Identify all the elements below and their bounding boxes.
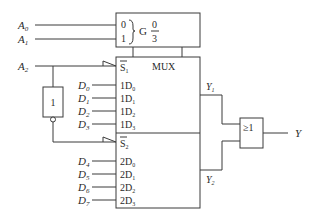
svg-text:0: 0 <box>121 19 126 30</box>
y-output-label: Y <box>295 127 303 139</box>
s1-active-low-indicator <box>103 61 116 66</box>
svg-text:D6: D6 <box>77 181 90 195</box>
or-gate-label: ≥1 <box>243 122 254 133</box>
y1-wire <box>200 95 240 124</box>
svg-text:D5: D5 <box>77 168 90 182</box>
svg-text:1: 1 <box>121 33 126 44</box>
svg-text:G: G <box>139 25 147 37</box>
inverter-branch: 1 <box>43 66 116 142</box>
svg-text:D2: D2 <box>77 105 90 119</box>
svg-text:A0: A0 <box>17 19 29 33</box>
svg-text:D0: D0 <box>77 79 90 93</box>
control-block: 0 1 G 0 3 <box>116 13 200 57</box>
input-a0: A0 <box>17 19 116 33</box>
svg-text:A2: A2 <box>17 60 29 74</box>
mux-block: MUX S1 1D0 1D1 1D2 1D3 S2 2D0 2D1 2D2 2D… <box>116 57 200 208</box>
input-a2: A2 <box>17 60 116 74</box>
svg-text:D3: D3 <box>77 118 90 132</box>
inverter-label: 1 <box>51 97 56 108</box>
svg-text:D7: D7 <box>77 194 90 208</box>
s2-active-low-indicator <box>103 137 116 142</box>
svg-text:0: 0 <box>152 19 157 30</box>
input-a1: A1 <box>17 33 116 47</box>
svg-text:3: 3 <box>152 33 157 44</box>
y2-wire <box>200 141 240 170</box>
output-section: Y1 Y2 ≥1 Y <box>200 81 303 186</box>
inverter-bubble <box>51 117 56 122</box>
y2-label: Y2 <box>206 174 215 186</box>
mux-title: MUX <box>152 61 176 72</box>
svg-text:D1: D1 <box>77 92 89 106</box>
svg-text:D4: D4 <box>77 155 90 169</box>
y1-label: Y1 <box>206 81 215 93</box>
data-inputs: D0 D1 D2 D3 D4 D5 D6 D7 <box>77 79 116 208</box>
circuit-diagram: A0 A1 A2 1 0 1 G 0 3 <box>0 0 316 224</box>
svg-text:A1: A1 <box>17 33 28 47</box>
